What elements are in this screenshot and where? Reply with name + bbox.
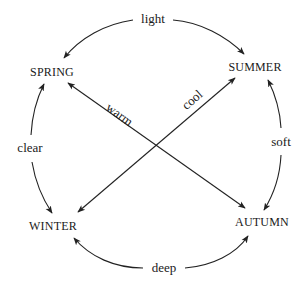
arrow-soft-to-autumn xyxy=(264,155,281,210)
label-warm: warm xyxy=(103,100,136,130)
arrow-deep-to-winter xyxy=(74,238,143,268)
diagram-canvas: SPRING SUMMER WINTER AUTUMN light clear … xyxy=(0,0,306,287)
node-summer: SUMMER xyxy=(228,60,281,74)
arrow-light-to-summer xyxy=(173,20,244,54)
label-clear: clear xyxy=(17,140,43,155)
label-deep: deep xyxy=(152,260,177,275)
label-cool: cool xyxy=(179,86,206,112)
label-soft: soft xyxy=(271,134,291,149)
node-winter: WINTER xyxy=(29,219,77,233)
label-light: light xyxy=(141,11,165,26)
node-autumn: AUTUMN xyxy=(235,215,289,229)
arrow-deep-to-autumn xyxy=(185,236,248,268)
arrow-summer-winter xyxy=(78,78,235,212)
arrow-soft-to-summer xyxy=(268,80,281,128)
arrow-clear-to-spring xyxy=(31,84,44,135)
arrow-light-to-spring xyxy=(64,20,133,58)
seasons-diagram: SPRING SUMMER WINTER AUTUMN light clear … xyxy=(0,0,306,287)
node-spring: SPRING xyxy=(30,65,74,79)
arrow-clear-to-winter xyxy=(32,162,52,213)
